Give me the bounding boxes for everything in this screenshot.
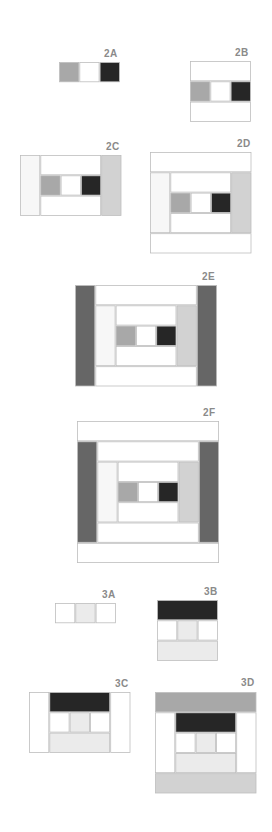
patch-pale	[196, 733, 215, 752]
patch-white	[191, 193, 210, 212]
patch-white	[96, 286, 197, 305]
patch-white	[61, 176, 80, 195]
patch-white	[111, 693, 130, 753]
patch-light-gray	[177, 306, 196, 366]
patch-medium-gray	[156, 693, 257, 712]
patch-white	[96, 604, 115, 623]
patch-white	[171, 213, 231, 232]
patch-dark-gray	[78, 442, 97, 543]
patch-very-light	[98, 462, 117, 522]
patch-very-light	[96, 306, 115, 366]
patch-white	[118, 462, 178, 481]
patch-very-light	[21, 156, 40, 216]
patch-medium-gray	[116, 326, 135, 345]
label-3b: 3B	[204, 586, 218, 597]
block-2d-svg	[150, 152, 252, 254]
patch-white	[116, 346, 176, 365]
patch-white	[136, 326, 155, 345]
patch-dark	[211, 193, 230, 212]
block-2a-svg	[59, 62, 120, 82]
label-2e: 2E	[202, 271, 215, 282]
patch-white	[216, 733, 235, 752]
block-2e	[75, 285, 217, 387]
patch-white	[171, 173, 231, 192]
block-3b	[157, 600, 218, 661]
block-3b-svg	[157, 600, 218, 661]
patch-dark	[50, 693, 110, 712]
patch-white	[176, 733, 195, 752]
patch-white	[90, 713, 109, 732]
patch-medium-gray	[171, 193, 190, 212]
patch-medium-gray	[118, 482, 137, 501]
patch-white	[78, 422, 219, 441]
label-3d: 3D	[241, 677, 255, 688]
patch-white	[237, 713, 256, 773]
label-2b: 2B	[235, 47, 249, 58]
patch-dark	[158, 601, 218, 620]
patch-white	[138, 482, 157, 501]
block-2a	[59, 62, 120, 82]
block-2c	[20, 155, 122, 216]
patch-white	[30, 693, 49, 753]
patch-light-gray	[232, 173, 251, 233]
patch-dark-gray	[76, 286, 95, 387]
block-2f	[77, 421, 219, 563]
block-2d	[150, 152, 252, 254]
label-2d: 2D	[237, 138, 251, 149]
patch-dark-gray	[197, 286, 216, 387]
patch-white	[151, 234, 252, 253]
patch-white	[118, 503, 178, 522]
patch-light-gray	[102, 156, 121, 216]
patch-white	[151, 153, 252, 172]
patch-white	[96, 367, 197, 386]
block-2b-svg	[190, 61, 251, 122]
patch-pale	[70, 713, 89, 732]
label-2a: 2A	[104, 48, 118, 59]
patch-pale	[178, 621, 197, 640]
patch-medium-gray	[191, 82, 210, 101]
patch-pale	[158, 641, 218, 660]
block-3a-svg	[55, 603, 116, 623]
patch-pale	[176, 753, 236, 772]
patch-pale	[50, 733, 110, 752]
patch-dark	[159, 482, 178, 501]
block-3d-svg	[155, 692, 257, 794]
label-3c: 3C	[115, 678, 129, 689]
patch-white	[98, 442, 199, 461]
block-2e-svg	[75, 285, 217, 387]
patch-white	[50, 713, 69, 732]
patch-dark	[157, 326, 176, 345]
patch-white	[211, 82, 230, 101]
patch-light-gray	[156, 774, 257, 793]
patch-white	[116, 306, 176, 325]
patch-dark	[231, 82, 250, 101]
patch-dark	[81, 176, 100, 195]
patch-medium-gray	[41, 176, 60, 195]
patch-pale	[76, 604, 95, 623]
block-3a	[55, 603, 116, 623]
patch-dark-gray	[199, 442, 218, 543]
patch-white	[41, 196, 101, 215]
patch-light-gray	[179, 462, 198, 522]
block-3c	[29, 692, 131, 753]
patch-white	[158, 621, 177, 640]
patch-white	[191, 102, 251, 121]
patch-dark	[100, 63, 119, 82]
patch-dark	[176, 713, 236, 732]
block-2f-svg	[77, 421, 219, 563]
label-2f: 2F	[203, 407, 216, 418]
patch-very-light	[151, 173, 170, 233]
patch-white	[191, 62, 251, 81]
patch-white	[156, 713, 175, 773]
block-3d	[155, 692, 257, 794]
patch-white	[198, 621, 217, 640]
block-2b	[190, 61, 251, 122]
block-2c-svg	[20, 155, 122, 216]
label-2c: 2C	[106, 141, 120, 152]
block-3c-svg	[29, 692, 131, 753]
patch-white	[80, 63, 99, 82]
patch-white	[98, 523, 199, 542]
label-3a: 3A	[102, 589, 116, 600]
patch-medium-gray	[60, 63, 79, 82]
patch-white	[41, 156, 101, 175]
